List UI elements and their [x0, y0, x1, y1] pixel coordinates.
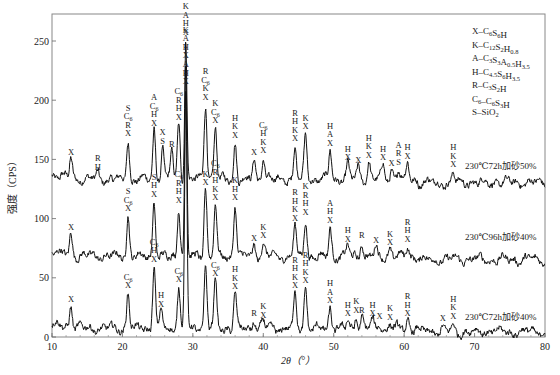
peak-label: R — [359, 305, 365, 315]
peak-label: R — [303, 250, 309, 260]
peak-label: H — [450, 142, 456, 152]
peak-label: H — [327, 121, 333, 131]
peak-label: X — [440, 313, 446, 323]
peak-label: C6 — [124, 111, 133, 122]
peak-label: K — [260, 222, 267, 232]
peak-label: X — [251, 233, 257, 243]
peak-label: K — [302, 113, 309, 123]
peak-label: K — [202, 169, 209, 179]
xrd-chart: 1020304050607080050100150200250 XHRXRC6S… — [0, 0, 560, 375]
peak-label: C6 — [174, 266, 183, 277]
peak-label: H — [366, 133, 372, 143]
peak-label: X — [355, 155, 361, 165]
peak-label: C6 — [174, 169, 183, 180]
peak-label: H — [405, 142, 411, 152]
peak-label: K — [183, 25, 190, 35]
peak-label: C6 — [150, 237, 159, 248]
peak-label: R — [292, 108, 298, 118]
peak-label: K — [232, 175, 239, 185]
y-tick-label: 200 — [34, 95, 49, 106]
peak-label: C6 — [150, 101, 159, 112]
peak-label: K — [212, 98, 219, 108]
peak-label: A — [395, 140, 402, 150]
peak-label: C6 — [124, 272, 133, 283]
series-label: 230℃96h加砂40% — [465, 231, 537, 242]
x-tick-label: 60 — [399, 341, 409, 352]
peak-label: C6 — [211, 260, 220, 271]
peak-label: H — [450, 294, 456, 304]
peak-label: H — [369, 300, 375, 310]
peak-label: A — [151, 92, 158, 102]
peak-label: R — [169, 139, 175, 149]
peak-label: C6 — [174, 86, 183, 97]
y-tick-label: 150 — [34, 154, 49, 165]
x-tick-label: 20 — [117, 341, 127, 352]
peak-label: X — [68, 147, 74, 157]
y-axis-label: 强度（CPS） — [6, 156, 18, 214]
peak-label: K — [387, 303, 394, 313]
peak-label: A — [183, 59, 190, 69]
peak-label: C6 — [259, 120, 268, 131]
x-tick-label: 70 — [470, 341, 480, 352]
series-label: 230℃72h加砂40% — [465, 311, 537, 322]
peak-label: S — [126, 186, 131, 196]
x-tick-label: 30 — [188, 341, 198, 352]
peak-label: R — [95, 153, 101, 163]
peak-label: H — [327, 278, 333, 288]
y-tick-label: 100 — [34, 213, 49, 224]
peak-label: X — [160, 127, 166, 137]
peak-label: R — [405, 291, 411, 301]
y-tick-label: 250 — [34, 36, 49, 47]
peak-label: X — [68, 222, 74, 232]
peak-label: K — [302, 181, 309, 191]
peak-label: R — [292, 187, 298, 197]
peak-label: K — [260, 301, 267, 311]
peak-label: S — [126, 103, 131, 113]
y-tick-label: 0 — [44, 332, 49, 343]
peak-label: H — [158, 290, 164, 300]
peak-label: C6 — [124, 195, 133, 206]
peak-label: H — [345, 225, 351, 235]
peak-label: C6 — [211, 158, 220, 169]
y-tick-label: 50 — [39, 272, 49, 283]
peak-label: X — [388, 158, 394, 168]
legend: X–C6S6HK–C12S2H0.8A–C3S3A0.5H3.5H–C4.5S6… — [472, 26, 530, 118]
peak-label: H — [232, 264, 238, 274]
x-tick-label: 80 — [540, 341, 550, 352]
x-tick-label: 10 — [47, 341, 57, 352]
peak-label: X — [251, 147, 257, 157]
peak-labels: XHRXRC6SXHC6ASXRXHRC6XHAKXKC6RXC6KXKHXXK… — [68, 1, 537, 323]
peak-label: A — [327, 198, 334, 208]
peak-label: R — [203, 66, 209, 76]
peak-label: R — [292, 255, 298, 265]
x-axis-label: 2θ（°） — [281, 355, 315, 366]
peak-label: X — [202, 177, 208, 187]
series-label: 230℃72h加砂50% — [465, 160, 537, 171]
peak-label: C6 — [201, 75, 210, 86]
peak-label: C6 — [211, 107, 220, 118]
peak-label: R — [359, 230, 365, 240]
x-tick-label: 40 — [258, 341, 268, 352]
peak-label: X — [376, 311, 382, 321]
peak-label: K — [387, 229, 394, 239]
legend-entry: R–C3S2H — [472, 80, 507, 94]
x-tick-label: 50 — [329, 341, 339, 352]
peak-label: H — [232, 113, 238, 123]
peak-label: R — [251, 308, 257, 318]
legend-entry: X–C6S6H — [472, 26, 508, 40]
peak-label: X — [373, 235, 379, 245]
peak-label: H — [380, 144, 386, 154]
legend-entry: S–SiO2 — [472, 107, 499, 118]
peak-label: H — [345, 300, 351, 310]
peak-label: R — [405, 217, 411, 227]
peak-label: S — [152, 172, 157, 182]
peak-label: K — [183, 1, 190, 11]
peak-label: H — [345, 144, 351, 154]
peak-label: X — [68, 294, 74, 304]
